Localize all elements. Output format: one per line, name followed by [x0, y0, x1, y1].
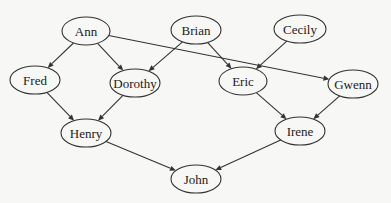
edge-henry-to-john: [106, 141, 176, 170]
node-label: Henry: [70, 126, 103, 141]
edge-dorothy-to-henry: [98, 95, 123, 120]
node-label: Gwenn: [334, 77, 372, 92]
node-label: Brian: [182, 23, 211, 38]
node-eric[interactable]: Eric: [219, 67, 267, 95]
node-label: John: [184, 172, 209, 187]
family-tree-graph: AnnBrianCecilyFredDorothyEricGwennHenryI…: [0, 0, 391, 203]
edge-line: [106, 141, 170, 168]
node-label: Eric: [232, 74, 254, 89]
node-cecily[interactable]: Cecily: [274, 15, 326, 43]
node-label: Ann: [75, 24, 98, 39]
node-dorothy[interactable]: Dorothy: [110, 69, 160, 97]
node-irene[interactable]: Irene: [275, 117, 325, 145]
edge-ann-to-gwenn: [109, 36, 330, 81]
node-label: Cecily: [283, 22, 317, 37]
node-brian[interactable]: Brian: [171, 16, 221, 44]
edge-brian-to-dorothy: [149, 42, 183, 71]
node-label: Dorothy: [113, 76, 157, 91]
node-fred[interactable]: Fred: [10, 66, 60, 94]
node-john[interactable]: John: [171, 165, 221, 193]
edge-line: [318, 96, 340, 115]
edge-line: [98, 43, 120, 66]
node-label: Fred: [23, 73, 47, 88]
edge-irene-to-john: [215, 140, 280, 170]
edge-cecily-to-eric: [256, 41, 287, 69]
edge-line: [260, 41, 286, 65]
edge-eric-to-irene: [256, 93, 286, 120]
node-henry[interactable]: Henry: [61, 119, 111, 147]
nodes-layer: AnnBrianCecilyFredDorothyEricGwennHenryI…: [10, 15, 378, 193]
edge-line: [52, 43, 74, 64]
edge-line: [102, 95, 123, 116]
node-gwenn[interactable]: Gwenn: [328, 70, 378, 98]
edge-line: [256, 93, 282, 116]
edge-line: [221, 140, 281, 168]
edge-ann-to-dorothy: [98, 43, 124, 70]
edge-ann-to-fred: [48, 43, 74, 68]
node-ann[interactable]: Ann: [62, 17, 110, 45]
edges-layer: [47, 36, 340, 171]
edge-fred-to-henry: [47, 92, 74, 120]
edge-gwenn-to-irene: [313, 96, 339, 119]
edge-line: [208, 42, 228, 64]
edge-line: [47, 92, 70, 116]
node-label: Irene: [287, 124, 314, 139]
